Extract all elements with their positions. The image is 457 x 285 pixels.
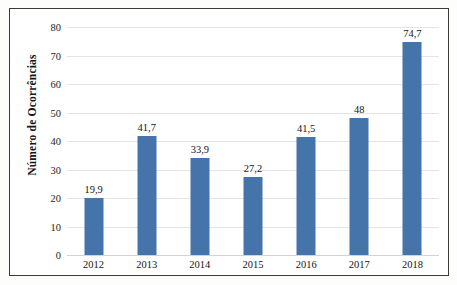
bar-2012[interactable] (84, 198, 103, 255)
x-tick-label-2013: 2013 (136, 259, 157, 270)
y-tick-label: 60 (51, 79, 62, 90)
x-axis-tick-labels: 2012201320142015201620172018 (67, 259, 439, 279)
bar-slot: 48 (333, 27, 386, 255)
y-tick-label: 30 (51, 164, 62, 175)
bar-2014[interactable] (190, 158, 209, 255)
y-tick-label: 50 (51, 107, 62, 118)
bar-value-label-2012: 19,9 (84, 184, 102, 195)
bar-2013[interactable] (137, 136, 156, 255)
y-tick-label: 20 (51, 193, 62, 204)
bar-value-label-2014: 33,9 (191, 144, 209, 155)
y-tick-label: 10 (51, 221, 62, 232)
x-tick-label-2016: 2016 (296, 259, 317, 270)
x-tick-label-2018: 2018 (402, 259, 423, 270)
x-tick-label-2014: 2014 (189, 259, 210, 270)
gridline (67, 255, 439, 256)
bar-2015[interactable] (243, 177, 262, 255)
y-axis-tick-labels: 01020304050607080 (28, 27, 61, 255)
bar-value-label-2013: 41,7 (138, 122, 156, 133)
bar-value-label-2017: 48 (354, 104, 365, 115)
x-tick-label-2017: 2017 (349, 259, 370, 270)
bar-series: 19,941,733,927,241,54874,7 (67, 27, 439, 255)
chart-figure: Número de Ocorrências 01020304050607080 … (0, 0, 457, 285)
bar-slot: 27,2 (226, 27, 279, 255)
bar-2017[interactable] (350, 118, 369, 255)
figure-frame: Número de Ocorrências 01020304050607080 … (9, 8, 449, 276)
bar-2016[interactable] (297, 137, 316, 255)
bar-value-label-2016: 41,5 (297, 123, 315, 134)
y-tick-label: 70 (51, 50, 62, 61)
y-tick-label: 80 (51, 22, 62, 33)
bar-slot: 41,7 (120, 27, 173, 255)
bar-slot: 19,9 (67, 27, 120, 255)
bar-slot: 74,7 (386, 27, 439, 255)
y-tick-label: 0 (56, 250, 61, 261)
bar-slot: 41,5 (280, 27, 333, 255)
bar-2018[interactable] (403, 42, 422, 255)
bar-slot: 33,9 (173, 27, 226, 255)
x-tick-label-2015: 2015 (243, 259, 264, 270)
bar-value-label-2018: 74,7 (403, 28, 421, 39)
bar-value-label-2015: 27,2 (244, 163, 262, 174)
y-tick-label: 40 (51, 136, 62, 147)
x-tick-label-2012: 2012 (83, 259, 104, 270)
plot-area: 19,941,733,927,241,54874,7 (67, 27, 439, 255)
